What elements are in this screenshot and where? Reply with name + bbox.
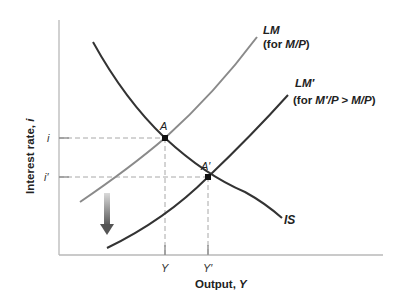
y-prime-tick-label: Y′	[203, 262, 213, 274]
shift-down-arrow-icon	[100, 193, 114, 235]
y-tick-label: Y	[161, 262, 169, 274]
lm-prime-curve	[107, 95, 288, 248]
x-axis-label: Output, Y	[195, 278, 248, 290]
i-prime-tick-label: i′	[44, 171, 49, 183]
is-curve	[93, 42, 282, 218]
is-lm-diagram: A A′ i i′ Y Y′ Output, Y Interest rate, …	[0, 0, 398, 307]
lm-curve	[80, 37, 257, 202]
lm-prime-curve-note: (for M′/P > M/P)	[293, 94, 376, 106]
is-curve-label: IS	[284, 213, 295, 227]
lm-curve-note: (for M/P)	[263, 38, 310, 50]
i-tick-label: i	[47, 132, 50, 144]
point-a-prime-marker	[205, 174, 211, 180]
point-a-label: A	[159, 120, 167, 132]
point-a-prime-label: A′	[200, 160, 211, 172]
lm-prime-curve-label: LM′	[295, 77, 316, 89]
point-a-marker	[162, 135, 168, 141]
lm-curve-label: LM	[263, 24, 280, 36]
y-axis-label: Interest rate, i	[24, 118, 36, 194]
